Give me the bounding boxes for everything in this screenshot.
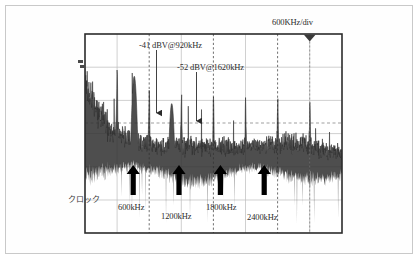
clock-label: クロック [68,196,100,204]
harmonic-label-600khz: 600kHz [118,203,144,212]
level-marker-tick [78,60,85,68]
annotation-label-41dbv: -41 dBV@920kHz [139,41,202,50]
scale-label-600khz-per-div: 600KHz/div [272,18,313,27]
harmonic-label-1800khz: 1800kHz [206,203,236,212]
annotation-label-52dbv: -52 dBV@1620kHz [177,63,244,72]
harmonic-label-2400khz: 2400kHz [247,213,277,222]
figure-root: 600KHz/div -41 dBV@920kHz -52 dBV@1620kH… [0,0,418,259]
spectrum-plot [0,0,418,259]
harmonic-label-1200khz: 1200kHz [161,212,191,221]
